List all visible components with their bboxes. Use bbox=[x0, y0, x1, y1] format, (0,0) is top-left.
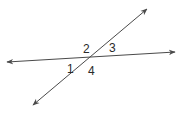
intersecting-lines-diagram: 1 2 3 4 bbox=[0, 0, 178, 115]
angle-label-4: 4 bbox=[88, 64, 95, 78]
angle-label-1: 1 bbox=[67, 62, 74, 76]
horizontal-line bbox=[7, 52, 175, 62]
angle-label-3: 3 bbox=[109, 41, 116, 55]
angle-label-2: 2 bbox=[83, 42, 90, 56]
diagram-canvas: 1 2 3 4 bbox=[0, 0, 178, 115]
